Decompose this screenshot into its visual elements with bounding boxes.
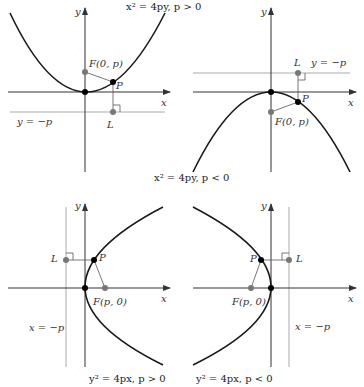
x-axis-label: x (348, 98, 354, 108)
point-label: P (250, 254, 257, 264)
panel-bottom-left (8, 204, 170, 367)
panel-bottom-right (193, 204, 356, 367)
focus-to-point-segment (94, 260, 105, 288)
directrix-point (110, 109, 116, 115)
directrix-label: y = −p (17, 117, 52, 127)
directrix-point (63, 257, 69, 263)
y-axis-label: y (261, 201, 267, 211)
focus-label: F(p, 0) (232, 297, 266, 307)
directrix-point (295, 70, 301, 76)
panel-top-left (8, 8, 170, 172)
equation-caption: y² = 4px, p < 0 (196, 374, 273, 384)
directrix-point (286, 257, 292, 263)
directrix-label: y = −p (311, 58, 346, 68)
focus-label: F(p, 0) (93, 297, 127, 307)
vertex-point (82, 89, 88, 95)
focus-point (102, 285, 108, 291)
panel-top-right (193, 8, 356, 172)
parabola-point (91, 257, 97, 263)
equation-caption: y² = 4px, p > 0 (89, 374, 166, 384)
focus-to-point-segment (85, 72, 113, 82)
x-axis-label: x (348, 294, 354, 304)
y-axis-label: y (75, 7, 81, 17)
parabola-curve (10, 13, 165, 92)
directrix-point-label: L (51, 254, 58, 264)
parabola-curve (85, 207, 163, 365)
directrix-point-label: L (296, 254, 303, 264)
vertex-point (268, 89, 274, 95)
equation-caption: x² = 4py, p < 0 (154, 173, 229, 183)
directrix-label: x = −p (295, 322, 330, 332)
parabola-curve (193, 207, 271, 365)
focus-point (82, 69, 88, 75)
focus-point (268, 109, 274, 115)
y-axis-label: y (75, 201, 81, 211)
focus-point (248, 285, 254, 291)
point-label: P (302, 94, 309, 104)
vertex-point (82, 285, 88, 291)
directrix-label: x = −p (29, 323, 64, 333)
focus-to-point-segment (271, 102, 298, 112)
parabola-point (258, 257, 264, 263)
directrix-point-label: L (107, 120, 114, 130)
parabola-point (295, 99, 301, 105)
x-axis-label: x (161, 98, 167, 108)
point-label: P (99, 253, 106, 263)
focus-label: F(0, p) (275, 117, 309, 127)
focus-to-point-segment (251, 260, 261, 288)
focus-label: F(0, p) (89, 59, 123, 69)
x-axis-label: x (161, 294, 167, 304)
directrix-point-label: L (294, 58, 301, 68)
equation-caption: x² = 4py, p > 0 (126, 2, 201, 12)
point-label: P (116, 81, 123, 91)
vertex-point (268, 285, 274, 291)
y-axis-label: y (261, 7, 267, 17)
